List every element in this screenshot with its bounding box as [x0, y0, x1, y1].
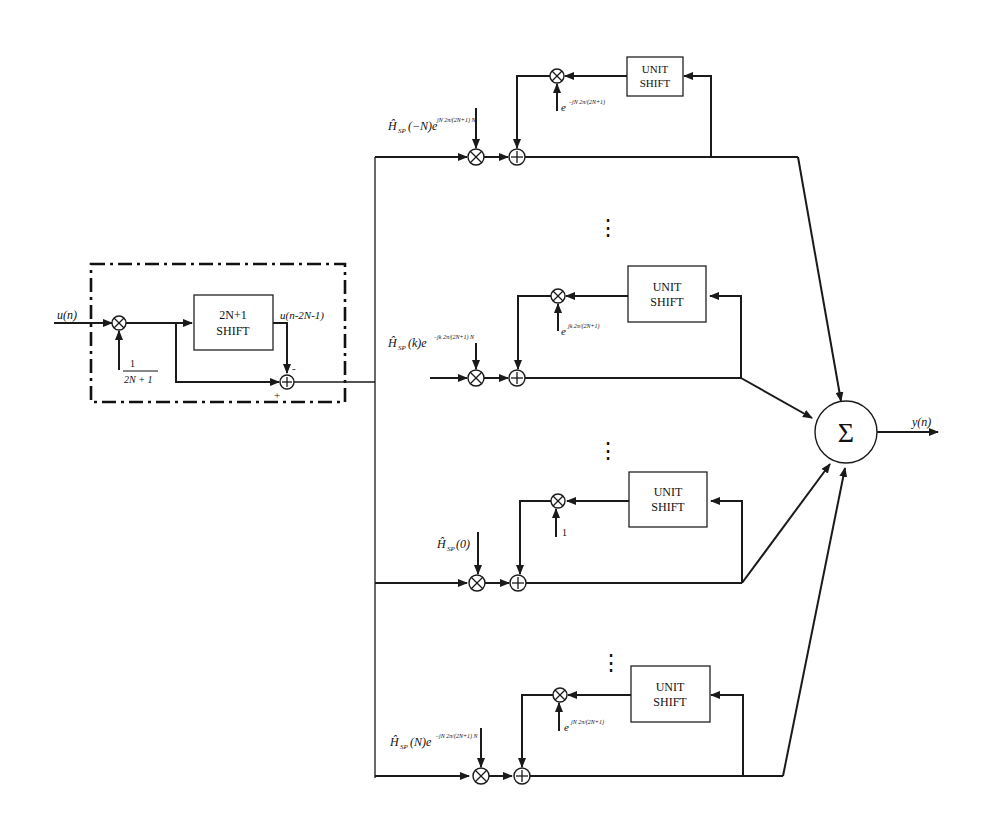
svg-text:jN 2π/(2N+1): jN 2π/(2N+1) — [570, 719, 604, 726]
resonator-branch-k: Ĥ SP (k)e −jk 2π/(2N+1) N UNIT SHIFT e j… — [387, 266, 812, 418]
comb-adder — [280, 375, 294, 389]
svg-text:e: e — [561, 101, 566, 113]
output-label: y(n) — [911, 415, 931, 429]
svg-text:SP: SP — [398, 344, 407, 352]
coef-label: Ĥ — [436, 537, 447, 551]
svg-text:SP: SP — [400, 743, 409, 751]
resonator-branch-zero: Ĥ SP (0) UNIT SHIFT 1 — [375, 464, 830, 591]
shift-box-line2: SHIFT — [216, 324, 250, 338]
input-label: u(n) — [57, 308, 77, 322]
unit-shift-box — [631, 666, 710, 722]
delayed-label: u(n-2N-1) — [280, 309, 324, 322]
svg-text:(k)e: (k)e — [408, 336, 427, 350]
comb-prefilter: u(n) 1 2N + 1 2N+1 SHIFT u(n-2N-1) - + — [54, 264, 375, 402]
ellipsis-1: ⋮ — [597, 215, 619, 240]
svg-text:UNIT: UNIT — [653, 280, 682, 294]
2n1-shift-box — [194, 295, 273, 350]
svg-text:SHIFT: SHIFT — [653, 695, 687, 709]
svg-text:−jN 2π/(2N+1) N: −jN 2π/(2N+1) N — [435, 733, 478, 740]
summation-node: Σ — [815, 401, 877, 463]
shift-box-line1: 2N+1 — [219, 308, 246, 322]
resonator-branch-n: Ĥ SP (N)e −jN 2π/(2N+1) N UNIT SHIFT e j… — [375, 468, 845, 784]
svg-text:SHIFT: SHIFT — [650, 295, 684, 309]
svg-text:1: 1 — [562, 527, 567, 538]
svg-text:(N)e: (N)e — [410, 735, 432, 749]
plus-sign: + — [274, 389, 280, 401]
svg-text:(0): (0) — [456, 537, 470, 551]
ellipsis-2: ⋮ — [597, 438, 619, 463]
delayed-line — [273, 323, 287, 373]
coef-label: Ĥ — [389, 735, 400, 749]
svg-text:jN 2π/(2N+1) N: jN 2π/(2N+1) N — [436, 117, 476, 124]
svg-text:e: e — [564, 721, 569, 733]
svg-text:UNIT: UNIT — [656, 680, 685, 694]
svg-text:SP: SP — [398, 127, 407, 135]
svg-text:−jN 2π/(2N+1): −jN 2π/(2N+1) — [568, 99, 605, 106]
unit-shift-box — [628, 266, 706, 322]
svg-text:−jk 2π/(2N+1) N: −jk 2π/(2N+1) N — [433, 334, 475, 341]
gain-numerator: 1 — [130, 358, 135, 369]
coef-label: Ĥ — [387, 119, 398, 133]
gain-multiplier — [112, 316, 126, 330]
svg-text:SHIFT: SHIFT — [640, 77, 671, 89]
svg-text:SHIFT: SHIFT — [651, 500, 685, 514]
svg-text:UNIT: UNIT — [654, 485, 683, 499]
frequency-sampling-filter-diagram: u(n) 1 2N + 1 2N+1 SHIFT u(n-2N-1) - + — [0, 0, 988, 834]
gain-denominator: 2N + 1 — [124, 374, 152, 385]
svg-text:UNIT: UNIT — [642, 63, 669, 75]
svg-text:(−N)e: (−N)e — [408, 119, 438, 133]
minus-sign: - — [292, 362, 296, 374]
svg-text:e: e — [561, 325, 566, 337]
sigma-symbol: Σ — [838, 417, 854, 448]
coef-label: Ĥ — [387, 336, 398, 350]
svg-text:jk 2π/(2N+1): jk 2π/(2N+1) — [567, 323, 600, 330]
svg-text:SP: SP — [447, 545, 456, 553]
ellipsis-3: ⋮ — [600, 650, 622, 675]
